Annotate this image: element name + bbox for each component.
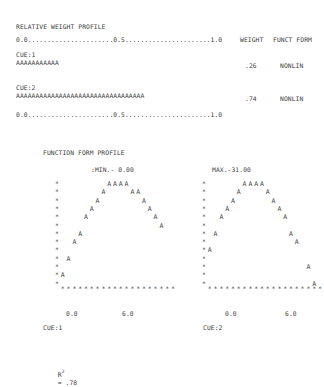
plot-2-cue-label: CUE:2 <box>203 324 222 332</box>
y-axis-mark: * <box>202 256 206 263</box>
function-plot-cue-1: *********************************AAAAAAA… <box>55 181 175 301</box>
y-axis-mark: * <box>202 189 206 196</box>
cue-1-weight-bar: AAAAAAAAAAA <box>16 59 59 67</box>
plot-point: A <box>136 189 140 196</box>
x-axis-mark: * <box>301 286 305 293</box>
function-form-title: FUNCTION FORM PROFILE <box>43 149 125 157</box>
cue-2-weight: .74 <box>245 95 257 103</box>
weight-scale-top: 0.0......................0.5............… <box>16 36 222 44</box>
y-axis-mark: * <box>55 223 59 230</box>
x-axis-mark: * <box>254 286 258 293</box>
plot-point: A <box>107 181 111 188</box>
funct-form-column-header: FUNCT FORM <box>273 36 312 44</box>
x-axis-mark: * <box>61 286 65 293</box>
relative-weight-title: RELATIVE WEIGHT PROFILE <box>16 23 106 31</box>
x-axis-mark: * <box>78 286 82 293</box>
r-squared: R2 = .78 <box>50 360 77 387</box>
x-axis-mark: * <box>154 286 158 293</box>
plot-point: A <box>312 281 316 288</box>
x-axis-mark: * <box>130 286 134 293</box>
x-axis-mark: * <box>96 286 100 293</box>
cue-1-funct-form: NONLIN <box>280 62 303 70</box>
plot-point: A <box>283 214 287 221</box>
y-axis-mark: * <box>202 272 206 279</box>
x-axis-mark: * <box>125 286 129 293</box>
plot-point: A <box>90 206 94 213</box>
plot-point: A <box>67 256 71 263</box>
x-axis-mark: * <box>84 286 88 293</box>
y-axis-mark: * <box>202 264 206 271</box>
plot-point: A <box>225 206 229 213</box>
function-plot-cue-2: *********************************AAAAAAA… <box>202 181 322 301</box>
y-axis-mark: * <box>202 206 206 213</box>
y-axis-mark: * <box>55 231 59 238</box>
plot-point: A <box>295 239 299 246</box>
plot-point: A <box>306 264 310 271</box>
x-axis-mark: * <box>231 286 235 293</box>
y-axis-mark: * <box>202 214 206 221</box>
x-axis-mark: * <box>277 286 281 293</box>
x-axis-mark: * <box>266 286 270 293</box>
r-squared-exponent: 2 <box>62 369 65 374</box>
x-axis-mark: * <box>248 286 252 293</box>
x-axis-mark: * <box>260 286 264 293</box>
cue-1-label: CUE:1 <box>16 51 35 59</box>
plot-point: A <box>237 189 241 196</box>
plot-1-xmin: 0.0 <box>66 310 78 318</box>
x-axis-mark: * <box>208 286 212 293</box>
x-axis-mark: * <box>318 286 322 293</box>
plot-point: A <box>101 189 105 196</box>
y-axis-mark: * <box>202 198 206 205</box>
y-axis-mark: * <box>55 181 59 188</box>
plot-point: A <box>84 214 88 221</box>
y-axis-mark: * <box>55 214 59 221</box>
x-axis-mark: * <box>101 286 105 293</box>
min-label: :MIN.- 0.00 <box>91 166 134 174</box>
plot-point: A <box>61 272 65 279</box>
plot-point: A <box>148 206 152 213</box>
x-axis-mark: * <box>295 286 299 293</box>
cue-2-weight-bar: AAAAAAAAAAAAAAAAAAAAAAAAAAAAAAAAA <box>16 92 144 100</box>
y-axis-mark: * <box>202 223 206 230</box>
x-axis-mark: * <box>171 286 175 293</box>
y-axis-mark: * <box>55 198 59 205</box>
plot-point: A <box>125 181 129 188</box>
plot-2-xmax: 6.0 <box>285 310 297 318</box>
y-axis-mark: * <box>202 239 206 246</box>
plot-point: A <box>142 198 146 205</box>
x-axis-mark: * <box>289 286 293 293</box>
x-axis-mark: * <box>119 286 123 293</box>
x-axis-mark: * <box>148 286 152 293</box>
r-squared-value: = .78 <box>58 379 77 386</box>
plot-point: A <box>119 181 123 188</box>
y-axis-mark: * <box>55 189 59 196</box>
x-axis-mark: * <box>165 286 169 293</box>
y-axis-mark: * <box>55 264 59 271</box>
plot-point: A <box>289 231 293 238</box>
x-axis-mark: * <box>272 286 276 293</box>
y-axis-mark: * <box>202 281 206 288</box>
plot-point: A <box>130 189 134 196</box>
x-axis-mark: * <box>306 286 310 293</box>
plot-point: A <box>277 206 281 213</box>
x-axis-mark: * <box>159 286 163 293</box>
x-axis-mark: * <box>214 286 218 293</box>
x-axis-mark: * <box>283 286 287 293</box>
y-axis-mark: * <box>202 181 206 188</box>
plot-point: A <box>248 181 252 188</box>
plot-point: A <box>243 181 247 188</box>
x-axis-mark: * <box>107 286 111 293</box>
x-axis-mark: * <box>243 286 247 293</box>
y-axis-mark: * <box>55 256 59 263</box>
y-axis-mark: * <box>202 231 206 238</box>
cue-1-weight: .26 <box>245 62 257 70</box>
x-axis-mark: * <box>90 286 94 293</box>
plot-point: A <box>214 231 218 238</box>
plot-point: A <box>113 181 117 188</box>
y-axis-mark: * <box>55 247 59 254</box>
cue-2-label: CUE:2 <box>16 84 35 92</box>
max-label: MAX.-31.00 <box>212 166 251 174</box>
plot-point: A <box>231 198 235 205</box>
plot-2-xmin: 0.0 <box>225 310 237 318</box>
x-axis-mark: * <box>237 286 241 293</box>
